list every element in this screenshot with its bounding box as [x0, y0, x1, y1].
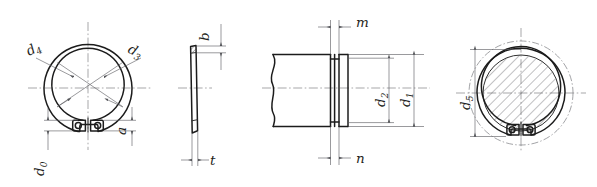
label-d5: d5 — [457, 95, 475, 110]
label-m: m — [356, 14, 369, 30]
view-front-ring: d4 d3 d0 a — [23, 22, 152, 176]
label-d1: d1 — [397, 93, 415, 107]
label-d4: d4 — [23, 38, 44, 61]
diameter-arrow-lower-left — [57, 100, 68, 107]
label-d2: d2 — [372, 92, 390, 107]
label-n: n — [356, 150, 365, 166]
label-d3: d3 — [125, 40, 146, 63]
view-side-ring: b t — [178, 24, 226, 168]
label-a: a — [113, 127, 129, 135]
ring-edge-section-hatch — [191, 47, 196, 53]
shaft-break-line-left — [271, 55, 275, 127]
technical-drawing-canvas: d4 d3 d0 a — [0, 0, 597, 187]
label-b: b — [196, 32, 212, 41]
label-d0: d0 — [31, 161, 49, 176]
view-shaft-groove: m n d2 d1 — [262, 14, 430, 166]
view-assembly: d5 — [419, 28, 586, 152]
label-t: t — [210, 152, 216, 168]
drawing-sheet: d4 d3 d0 a — [0, 0, 597, 187]
